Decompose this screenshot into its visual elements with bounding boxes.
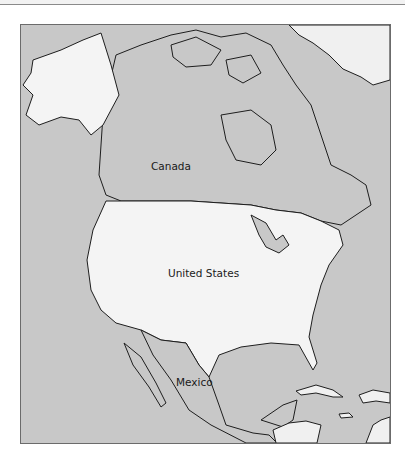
- south-america-shape: [366, 417, 390, 443]
- jamaica-shape: [339, 413, 353, 418]
- north-america-map: Canada United States Mexico: [20, 24, 391, 444]
- alaska-shape: [23, 33, 119, 135]
- united-states-label: United States: [168, 267, 239, 279]
- greenland-shape: [289, 25, 390, 85]
- united-states-shape: [87, 201, 343, 377]
- canada-label: Canada: [151, 160, 191, 172]
- hispaniola-shape: [359, 390, 390, 403]
- page-top-rule: [0, 0, 405, 5]
- mexico-label: Mexico: [176, 376, 213, 388]
- cuba-shape: [296, 385, 343, 397]
